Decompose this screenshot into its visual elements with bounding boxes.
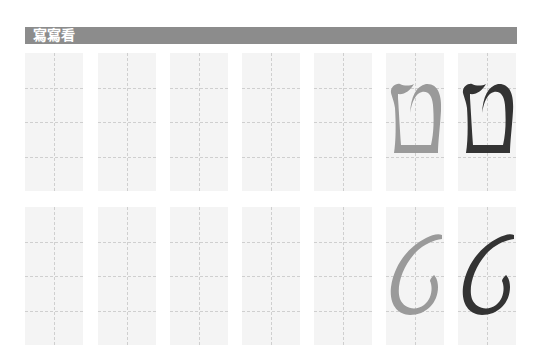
practice-cell[interactable] — [170, 53, 228, 191]
practice-cell[interactable] — [98, 53, 156, 191]
model-cell-tet-print — [458, 53, 516, 191]
model-cell-tet-cursive — [458, 207, 516, 345]
tet-print-trace-glyph — [386, 53, 444, 191]
tet-cursive-model-glyph — [458, 207, 516, 345]
practice-cell[interactable] — [25, 207, 83, 345]
practice-cell[interactable] — [242, 53, 300, 191]
trace-cell-tet-cursive[interactable] — [386, 207, 444, 345]
practice-cell[interactable] — [242, 207, 300, 345]
practice-cell[interactable] — [314, 53, 372, 191]
practice-cell[interactable] — [25, 53, 83, 191]
header-bar: 寫寫看 — [25, 27, 517, 44]
tet-print-model-glyph — [458, 53, 516, 191]
trace-cell-tet-print[interactable] — [386, 53, 444, 191]
practice-cell[interactable] — [314, 207, 372, 345]
page-title: 寫寫看 — [33, 27, 75, 44]
practice-cell[interactable] — [98, 207, 156, 345]
tet-cursive-trace-glyph — [386, 207, 444, 345]
practice-cell[interactable] — [170, 207, 228, 345]
